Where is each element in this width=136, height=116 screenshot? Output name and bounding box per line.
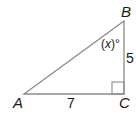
- triangle-diagram: A B C 7 5 (x)°: [0, 0, 136, 116]
- side-label-ac: 7: [67, 95, 75, 111]
- vertex-label-a: A: [12, 94, 23, 111]
- triangle-abc: [24, 21, 124, 94]
- side-label-bc: 5: [126, 50, 134, 66]
- vertex-label-b: B: [121, 3, 131, 20]
- vertex-label-c: C: [119, 94, 130, 111]
- angle-label-b: (x)°: [101, 37, 120, 51]
- right-angle-marker: [112, 82, 124, 94]
